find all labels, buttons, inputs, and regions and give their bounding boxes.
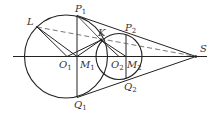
point-s (195, 55, 198, 58)
label-q2: Q2 (124, 81, 137, 94)
label-p2: P2 (124, 22, 136, 35)
label-m1: M1 (79, 59, 95, 72)
label-k: K (97, 27, 106, 38)
segment-k-m2 (101, 40, 126, 57)
label-o1: O1 (59, 59, 72, 72)
label-l: L (26, 16, 34, 27)
segment-l-m1 (37, 27, 77, 57)
label-p1: P1 (74, 3, 86, 16)
point-k (100, 39, 103, 42)
label-s: S (200, 43, 207, 54)
segment-k-o2 (101, 40, 119, 57)
label-q1: Q1 (74, 99, 87, 112)
upper-tangent (77, 16, 196, 57)
point-l (36, 26, 38, 28)
label-m2: M2 (126, 59, 142, 72)
geometry-diagram: L K P1 Q1 P2 Q2 O1 M1 O2 M2 S (0, 0, 219, 113)
label-o2: O2 (111, 59, 124, 72)
dashed-line-ls (37, 27, 196, 57)
